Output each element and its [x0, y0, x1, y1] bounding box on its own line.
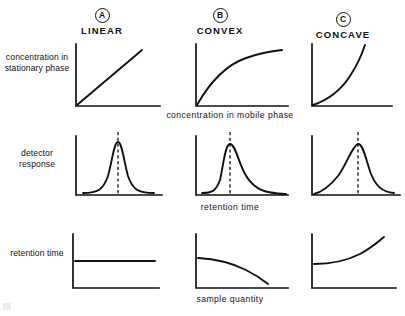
scan-artifact: [3, 303, 11, 310]
column-title-a: LINEAR: [47, 25, 157, 36]
column-marker-c-icon: C: [336, 12, 351, 27]
row-label-stationary-phase: concentration in stationary phase: [4, 52, 70, 73]
column-marker-b-icon: B: [213, 8, 228, 23]
panel-c1-concave-isotherm: [308, 42, 400, 112]
x-caption-retention-time: retention time: [170, 202, 290, 212]
panel-a1-curve: [77, 50, 142, 105]
panel-c3-increasing-retention: [308, 232, 402, 294]
x-caption-sample-quantity: sample quantity: [170, 294, 290, 304]
panel-b2-curve: [202, 144, 286, 194]
panel-c1-curve: [313, 45, 365, 105]
column-header-a: A LINEAR: [47, 8, 157, 36]
column-header-b: B CONVEX: [165, 8, 275, 36]
column-title-b: CONVEX: [165, 25, 275, 36]
panel-c1-axes: [312, 44, 392, 106]
panel-b1-curve: [197, 50, 282, 105]
panel-a1-axes: [76, 44, 160, 106]
panel-a3-constant-retention: [69, 232, 167, 294]
column-header-c: C CONCAVE: [288, 12, 398, 40]
panel-c3-curve: [314, 237, 384, 264]
panel-c2-curve: [314, 144, 394, 194]
x-caption-mobile-phase: concentration in mobile phase: [150, 110, 310, 120]
panel-c2-fronting-peak: [308, 130, 404, 202]
panel-b3-curve: [198, 258, 268, 284]
panel-a2-symmetric-peak: [72, 130, 170, 202]
row-label-detector-response: detector response: [4, 148, 70, 169]
panel-b1-axes: [196, 44, 288, 106]
panel-b2-tailing-peak: [192, 130, 294, 202]
panel-c3-axes: [312, 234, 396, 288]
column-marker-a-icon: A: [95, 8, 110, 23]
panel-b1-convex-isotherm: [192, 42, 294, 112]
chromatography-isotherm-figure: A LINEAR B CONVEX C CONCAVE concentratio…: [0, 0, 405, 316]
panel-a1-linear-isotherm: [72, 42, 170, 112]
panel-b3-decreasing-retention: [192, 232, 294, 294]
panel-a2-axes: [76, 136, 162, 195]
column-title-c: CONCAVE: [288, 29, 398, 40]
panel-b3-axes: [196, 234, 288, 288]
row-label-retention-time: retention time: [4, 248, 70, 259]
